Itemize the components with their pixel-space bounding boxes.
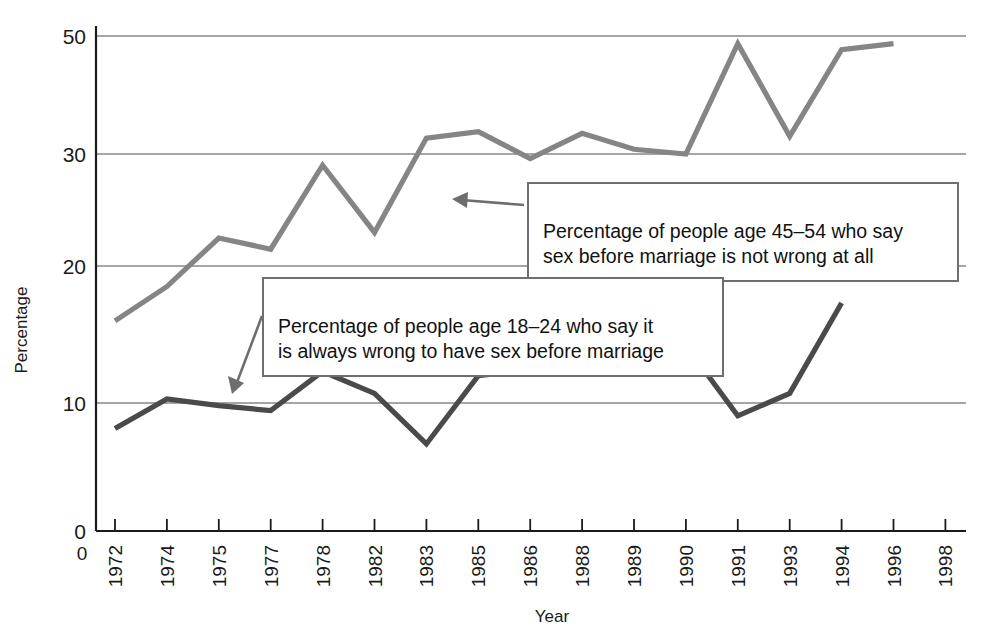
- annotation-box-age-45-54: Percentage of people age 45–54 who say s…: [527, 182, 959, 282]
- x-tick-label: 1977: [261, 545, 282, 587]
- x-tick-label: 1990: [676, 545, 697, 587]
- annotation-text-age-18-24: Percentage of people age 18–24 who say i…: [278, 315, 664, 363]
- y-tick-labels-group: 010203050: [63, 25, 86, 543]
- x-tick-label: 1996: [884, 545, 905, 587]
- x-axis-title: Year: [535, 607, 570, 626]
- x-origin-zero-label: 0: [77, 543, 88, 564]
- x-tick-label: 1991: [728, 545, 749, 587]
- x-tick-label: 1982: [365, 545, 386, 587]
- x-tick-label: 1988: [572, 545, 593, 587]
- y-axis-title: Percentage: [12, 287, 31, 374]
- annotation-box-age-18-24: Percentage of people age 18–24 who say i…: [262, 277, 724, 377]
- x-tick-label: 1989: [624, 545, 645, 587]
- x-tick-label: 1993: [780, 545, 801, 587]
- y-tick-label: 0: [74, 520, 86, 543]
- y-tick-label: 20: [63, 255, 86, 278]
- x-tick-label: 1998: [935, 545, 956, 587]
- y-tick-label: 50: [63, 25, 86, 48]
- x-tick-label: 1986: [520, 545, 541, 587]
- chart-container: 010203050 197219741975197719781982198319…: [0, 0, 983, 637]
- x-tick-label: 1975: [209, 545, 230, 587]
- x-tick-labels-group: 1972197419751977197819821983198519861988…: [105, 545, 956, 588]
- x-tick-label: 1983: [416, 545, 437, 587]
- callout-leader-lower: [228, 316, 262, 394]
- annotation-text-age-45-54: Percentage of people age 45–54 who say s…: [543, 220, 903, 268]
- y-tick-label: 10: [63, 392, 86, 415]
- x-tick-label: 1972: [105, 545, 126, 587]
- x-tick-label: 1978: [313, 545, 334, 587]
- x-tick-label: 1985: [468, 545, 489, 587]
- y-tick-label: 30: [63, 143, 86, 166]
- x-tick-label: 1994: [832, 545, 853, 588]
- x-tick-label: 1974: [157, 545, 178, 588]
- callout-leader-upper: [452, 192, 524, 208]
- x-tick-marks-group: [115, 519, 945, 531]
